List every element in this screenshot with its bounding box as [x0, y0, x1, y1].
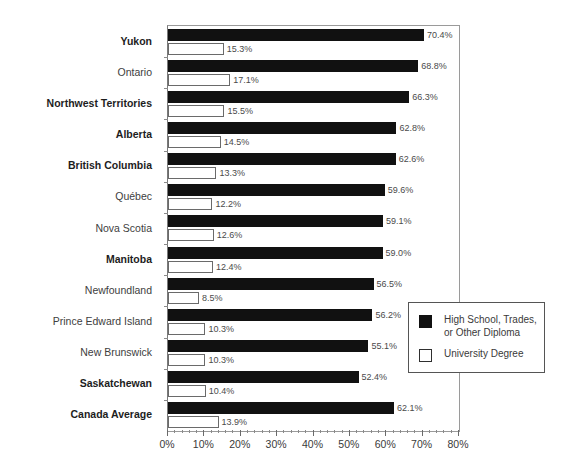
x-tick-label: 0%: [159, 438, 174, 450]
x-tick-major: [458, 430, 459, 436]
category-label: Québec: [115, 191, 152, 202]
x-tick-major: [422, 430, 423, 436]
bar-value-label: 62.6%: [399, 155, 425, 164]
bar-value-label: 62.8%: [399, 124, 425, 133]
category-tick: [164, 244, 168, 245]
x-tick-minor: [283, 430, 284, 433]
bar-value-label: 66.3%: [412, 93, 438, 102]
x-tick-minor: [393, 430, 394, 433]
bar-university: [168, 74, 230, 86]
bar-value-label: 59.1%: [386, 217, 412, 226]
x-tick-minor: [378, 430, 379, 433]
category-tick: [164, 182, 168, 183]
category-tick: [164, 275, 168, 276]
bar-value-label: 56.2%: [375, 311, 401, 320]
x-tick-minor: [356, 430, 357, 433]
x-tick-minor: [218, 430, 219, 433]
x-tick-minor: [189, 430, 190, 433]
x-tick-minor: [182, 430, 183, 433]
bar-value-label: 17.1%: [233, 76, 259, 85]
bar-high-school: [168, 402, 394, 414]
bar-value-label: 13.9%: [222, 418, 248, 427]
bar-value-label: 59.6%: [388, 186, 414, 195]
bar-value-label: 14.5%: [224, 138, 250, 147]
bar-university: [168, 292, 199, 304]
bar-high-school: [168, 309, 372, 321]
x-tick-minor: [363, 430, 364, 433]
category-label: Newfoundland: [85, 285, 152, 296]
bar-high-school: [168, 371, 359, 383]
bar-high-school: [168, 60, 418, 72]
bar-value-label: 10.4%: [209, 387, 235, 396]
x-tick-minor: [305, 430, 306, 433]
x-tick-minor: [327, 430, 328, 433]
bar-value-label: 55.1%: [371, 342, 397, 351]
x-tick-minor: [371, 430, 372, 433]
bar-university: [168, 416, 219, 428]
x-tick-major: [167, 430, 168, 436]
x-tick-minor: [269, 430, 270, 433]
bar-high-school: [168, 184, 385, 196]
bar-university: [168, 167, 216, 179]
x-tick-minor: [414, 430, 415, 433]
bar-university: [168, 43, 224, 55]
x-tick-minor: [291, 430, 292, 433]
x-tick-minor: [254, 430, 255, 433]
x-tick-major: [203, 430, 204, 436]
category-label: Alberta: [116, 129, 152, 140]
category-tick: [164, 369, 168, 370]
bar-university: [168, 323, 205, 335]
x-tick-major: [240, 430, 241, 436]
category-label: Nova Scotia: [95, 223, 152, 234]
x-tick-label: 60%: [375, 438, 396, 450]
category-label: Prince Edward Island: [53, 316, 152, 327]
category-label: British Columbia: [68, 160, 152, 171]
x-tick-minor: [443, 430, 444, 433]
bar-high-school: [168, 91, 409, 103]
bar-value-label: 59.0%: [386, 249, 412, 258]
bar-high-school: [168, 215, 383, 227]
x-tick-label: 70%: [411, 438, 432, 450]
x-tick-major: [276, 430, 277, 436]
bar-value-label: 70.4%: [427, 31, 453, 40]
category-tick: [164, 338, 168, 339]
x-tick-label: 80%: [447, 438, 468, 450]
bar-high-school: [168, 247, 383, 259]
bar-chart: YukonOntarioNorthwest TerritoriesAlberta…: [0, 0, 570, 466]
x-tick-minor: [196, 430, 197, 433]
legend-entry-university: University Degree: [419, 348, 523, 362]
category-axis-labels: YukonOntarioNorthwest TerritoriesAlberta…: [0, 25, 160, 430]
category-label: Manitoba: [106, 254, 152, 265]
bar-value-label: 12.2%: [215, 200, 241, 209]
x-tick-label: 10%: [193, 438, 214, 450]
x-tick-minor: [451, 430, 452, 433]
bar-value-label: 12.4%: [216, 263, 242, 272]
x-tick-label: 20%: [229, 438, 250, 450]
bar-value-label: 62.1%: [397, 404, 423, 413]
x-tick-label: 30%: [266, 438, 287, 450]
bar-high-school: [168, 122, 396, 134]
chart-legend: High School, Trades, or Other Diploma Un…: [408, 302, 545, 373]
category-tick: [164, 119, 168, 120]
bar-value-label: 52.4%: [362, 373, 388, 382]
category-label: Canada Average: [70, 409, 152, 420]
legend-entry-high-school: High School, Trades, or Other Diploma: [419, 314, 537, 339]
legend-label: High School, Trades, or Other Diploma: [444, 314, 537, 339]
x-axis: 0%10%20%30%40%50%60%70%80%: [167, 430, 459, 460]
bar-value-label: 13.3%: [219, 169, 245, 178]
category-tick: [164, 213, 168, 214]
bar-high-school: [168, 29, 424, 41]
bar-university: [168, 385, 206, 397]
x-tick-minor: [211, 430, 212, 433]
bar-value-label: 10.3%: [208, 325, 234, 334]
bar-university: [168, 229, 214, 241]
category-label: New Brunswick: [80, 347, 152, 358]
legend-label: University Degree: [444, 348, 523, 361]
x-tick-label: 40%: [302, 438, 323, 450]
category-tick: [164, 400, 168, 401]
x-tick-minor: [174, 430, 175, 433]
x-tick-major: [385, 430, 386, 436]
bar-value-label: 8.5%: [202, 294, 223, 303]
x-tick-label: 50%: [338, 438, 359, 450]
x-tick-minor: [429, 430, 430, 433]
